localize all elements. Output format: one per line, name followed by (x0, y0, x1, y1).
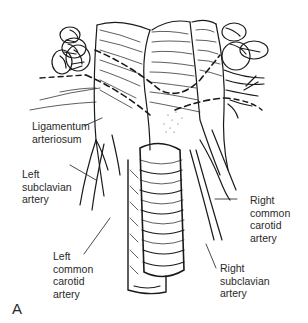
label-left-common-carotid-artery: Left common carotid artery (53, 250, 93, 300)
label-left-subclavian-artery: Left subclavian artery (22, 168, 72, 206)
right-upper-vessel-coils (222, 23, 268, 118)
label-line: artery (220, 287, 270, 300)
label-line: artery (22, 193, 72, 206)
left-upper-vessel-coils (52, 27, 90, 74)
label-line: Right (250, 194, 290, 207)
label-line: common (250, 207, 290, 220)
stippling (163, 111, 182, 132)
label-line: common (53, 263, 93, 276)
label-line: subclavian (22, 181, 72, 194)
label-line: carotid (250, 219, 290, 232)
label-right-subclavian-artery: Right subclavian artery (220, 262, 270, 300)
label-ligamentum-arteriosum: Ligamentum arteriosum (32, 120, 90, 145)
label-line: Left (53, 250, 93, 263)
panel-letter: A (12, 300, 22, 317)
label-line: Right (220, 262, 270, 275)
label-line: subclavian (220, 275, 270, 288)
label-line: Left (22, 168, 72, 181)
label-line: artery (250, 232, 290, 245)
label-line: carotid (53, 275, 93, 288)
trachea (140, 143, 184, 276)
label-line: arteriosum (32, 133, 90, 146)
label-right-common-carotid-artery: Right common carotid artery (250, 194, 290, 244)
right-vessels (190, 130, 236, 240)
label-line: Ligamentum (32, 120, 90, 133)
hatching (30, 29, 222, 112)
label-line: artery (53, 288, 93, 301)
anatomical-illustration: Ligamentum arteriosum Left subclavian ar… (0, 0, 308, 323)
